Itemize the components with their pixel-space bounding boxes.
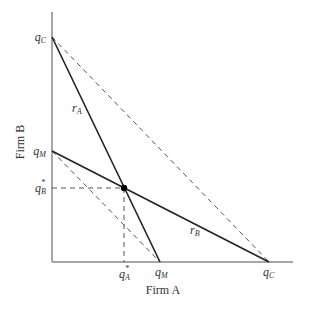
reaction-function-rA [52, 37, 160, 262]
x-label-qA-star: q*A [119, 264, 130, 282]
cournot-diagram: qC qM q*B q*A qM qC rA rB Firm A Firm B [0, 0, 317, 311]
y-label-qC: qC [35, 30, 47, 45]
y-label-qM: qM [33, 144, 47, 159]
x-label-qM: qM [155, 265, 169, 280]
equilibrium-point [121, 185, 127, 191]
monopoly-isoquant-dashed [52, 151, 160, 262]
competitive-isoquant-dashed [52, 37, 269, 262]
y-axis-title: Firm B [13, 125, 27, 159]
x-label-qC: qC [263, 265, 275, 280]
curve-label-rA: rA [72, 101, 82, 116]
y-label-qB-star: q*B [35, 178, 46, 196]
reaction-function-rB [52, 151, 269, 262]
x-axis-title: Firm A [146, 283, 181, 297]
